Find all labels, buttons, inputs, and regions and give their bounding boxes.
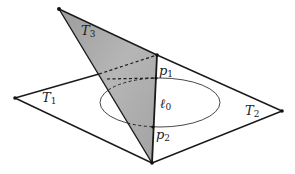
label-p2: p2 (156, 128, 170, 143)
label-T3-sub: 3 (90, 29, 96, 39)
label-T2-sub: 2 (254, 109, 260, 119)
label-T1: T1 (42, 91, 56, 106)
label-l0: ℓ0 (160, 97, 171, 112)
label-T3-base: T (81, 23, 90, 38)
vertex-right (280, 109, 284, 113)
diagram-canvas: T3 T1 T2 p1 ℓ0 p2 (0, 0, 295, 174)
point-p1 (154, 76, 157, 79)
edge-right-bottom (152, 111, 282, 163)
label-p2-sub: 2 (164, 133, 170, 143)
vertex-top (155, 53, 159, 57)
label-T1-sub: 1 (51, 96, 57, 106)
edge-left-top (15, 74, 99, 98)
label-p1-sub: 1 (167, 69, 173, 79)
vertex-apex-T3 (57, 7, 61, 11)
diagram-svg (0, 0, 295, 174)
label-T1-base: T (42, 90, 51, 105)
edge-right-top (157, 55, 282, 111)
point-p2 (151, 125, 154, 128)
label-T2-base: T (245, 103, 254, 118)
vertex-bottom (150, 161, 154, 165)
label-l0-sub: 0 (165, 102, 171, 112)
label-T3: T3 (81, 24, 95, 39)
vertex-left (13, 96, 17, 100)
label-T2: T2 (245, 104, 259, 119)
label-p1: p1 (159, 64, 173, 79)
